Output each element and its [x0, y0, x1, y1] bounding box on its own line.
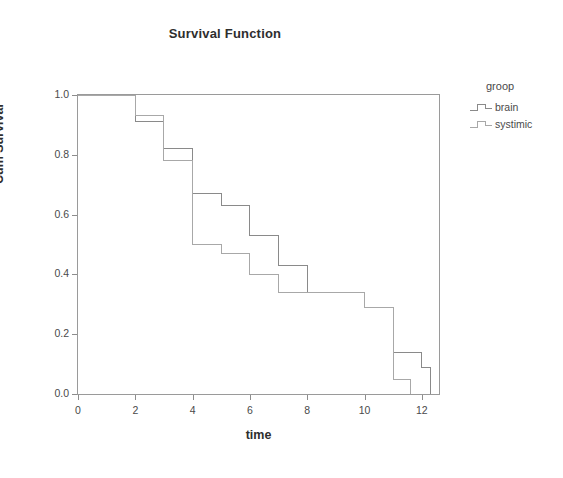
- x-axis-tick-label: 6: [235, 404, 265, 416]
- x-axis-tick-label: 0: [63, 404, 93, 416]
- x-axis-tick-label: 10: [350, 404, 380, 416]
- legend: groop brainsystimic: [470, 80, 560, 133]
- y-axis-tick-label: 0.2: [35, 327, 69, 339]
- x-axis-tick-mark: [307, 395, 308, 400]
- y-axis-tick-label: 1.0: [35, 88, 69, 100]
- x-axis-tick-label: 4: [178, 404, 208, 416]
- plot-area: [77, 94, 440, 395]
- y-axis-tick-label: 0.6: [35, 208, 69, 220]
- series-line-systimic: [78, 95, 410, 394]
- legend-step-icon: [470, 101, 492, 113]
- series-line-brain: [78, 95, 430, 394]
- y-axis-tick-label: 0.4: [35, 267, 69, 279]
- legend-item-label: systimic: [495, 118, 532, 130]
- x-axis-tick-label: 12: [407, 404, 437, 416]
- x-axis-tick-mark: [422, 395, 423, 400]
- x-axis-tick-label: 2: [120, 404, 150, 416]
- survival-function-chart: Survival Function Cum Survival 0.00.20.4…: [0, 0, 563, 478]
- x-axis-tick-mark: [135, 395, 136, 400]
- x-axis-tick-mark: [250, 395, 251, 400]
- y-axis-title: Cum Survival: [0, 104, 6, 184]
- y-axis-tick-label: 0.0: [35, 387, 69, 399]
- x-axis-tick-label: 8: [292, 404, 322, 416]
- step-curves: [78, 95, 439, 394]
- x-axis-tick-mark: [193, 395, 194, 400]
- x-axis-title: time: [77, 428, 440, 442]
- legend-item-label: brain: [495, 101, 518, 113]
- chart-title: Survival Function: [0, 26, 450, 41]
- x-axis-tick-mark: [365, 395, 366, 400]
- legend-step-icon: [470, 118, 492, 130]
- legend-item-brain[interactable]: brain: [470, 99, 560, 114]
- y-axis-tick-label: 0.8: [35, 148, 69, 160]
- legend-title: groop: [486, 80, 560, 92]
- legend-item-systimic[interactable]: systimic: [470, 116, 560, 131]
- x-axis-tick-mark: [78, 395, 79, 400]
- legend-items: brainsystimic: [470, 99, 560, 131]
